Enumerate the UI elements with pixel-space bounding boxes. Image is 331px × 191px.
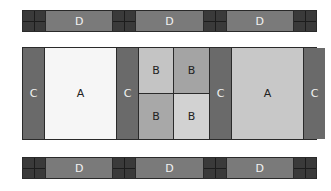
cross-block [294, 11, 316, 31]
cross-block [23, 158, 45, 178]
a-block-gray: A [232, 48, 304, 139]
d-block: D [135, 158, 203, 178]
cross-block [23, 11, 45, 31]
d-block: D [45, 158, 113, 178]
a-block-light: A [45, 48, 117, 139]
cross-block [204, 158, 226, 178]
b-block: B [139, 94, 174, 140]
d-block: D [135, 11, 203, 31]
d-block: D [45, 11, 113, 31]
c-block: C [304, 48, 325, 139]
b-block: B [174, 48, 209, 94]
c-block: C [23, 48, 45, 139]
middle-row: C A C B B B B C A C [22, 47, 317, 140]
bottom-strip: D D D [22, 157, 317, 179]
cross-block [294, 158, 316, 178]
cross-block [113, 158, 135, 178]
cross-block [204, 11, 226, 31]
top-strip: D D D [22, 10, 317, 32]
d-block: D [226, 158, 294, 178]
d-block: D [226, 11, 294, 31]
b-block: B [174, 94, 209, 140]
b-grid: B B B B [139, 48, 210, 139]
b-block: B [139, 48, 174, 94]
c-block: C [210, 48, 232, 139]
c-block: C [117, 48, 139, 139]
cross-block [113, 11, 135, 31]
